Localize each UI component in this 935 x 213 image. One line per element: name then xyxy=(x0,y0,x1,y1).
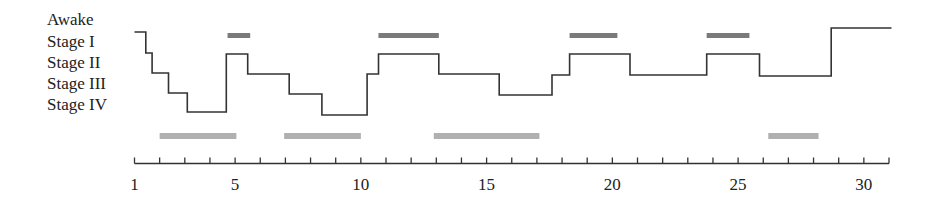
top-bar xyxy=(570,33,618,38)
x-tick-label: 25 xyxy=(730,175,747,194)
bottom-bar xyxy=(284,133,361,139)
top-bar xyxy=(228,33,251,38)
y-label-awake: Awake xyxy=(47,10,94,29)
x-tick-label: 20 xyxy=(604,175,621,194)
x-tick-label: 1 xyxy=(130,175,139,194)
sleep-stage-line xyxy=(135,28,892,115)
top-bars xyxy=(228,33,750,38)
top-bar xyxy=(378,33,438,38)
x-tick-label: 10 xyxy=(352,175,369,194)
x-tick-label: 30 xyxy=(855,175,872,194)
bottom-bars xyxy=(160,133,819,139)
bottom-bar xyxy=(434,133,540,139)
y-label-stage-iii: Stage III xyxy=(47,74,106,93)
x-tick-label: 5 xyxy=(231,175,240,194)
y-label-stage-i: Stage I xyxy=(47,32,95,51)
bottom-bar xyxy=(160,133,237,139)
top-bar xyxy=(707,33,750,38)
x-tick-label: 15 xyxy=(478,175,495,194)
x-axis: 151015202530 xyxy=(130,158,889,195)
y-axis-labels: AwakeStage IStage IIStage IIIStage IV xyxy=(47,10,108,114)
y-label-stage-ii: Stage II xyxy=(47,53,101,72)
y-label-stage-iv: Stage IV xyxy=(47,95,108,114)
bottom-bar xyxy=(768,133,818,139)
hypnogram-chart: AwakeStage IStage IIStage IIIStage IV 15… xyxy=(0,0,935,213)
